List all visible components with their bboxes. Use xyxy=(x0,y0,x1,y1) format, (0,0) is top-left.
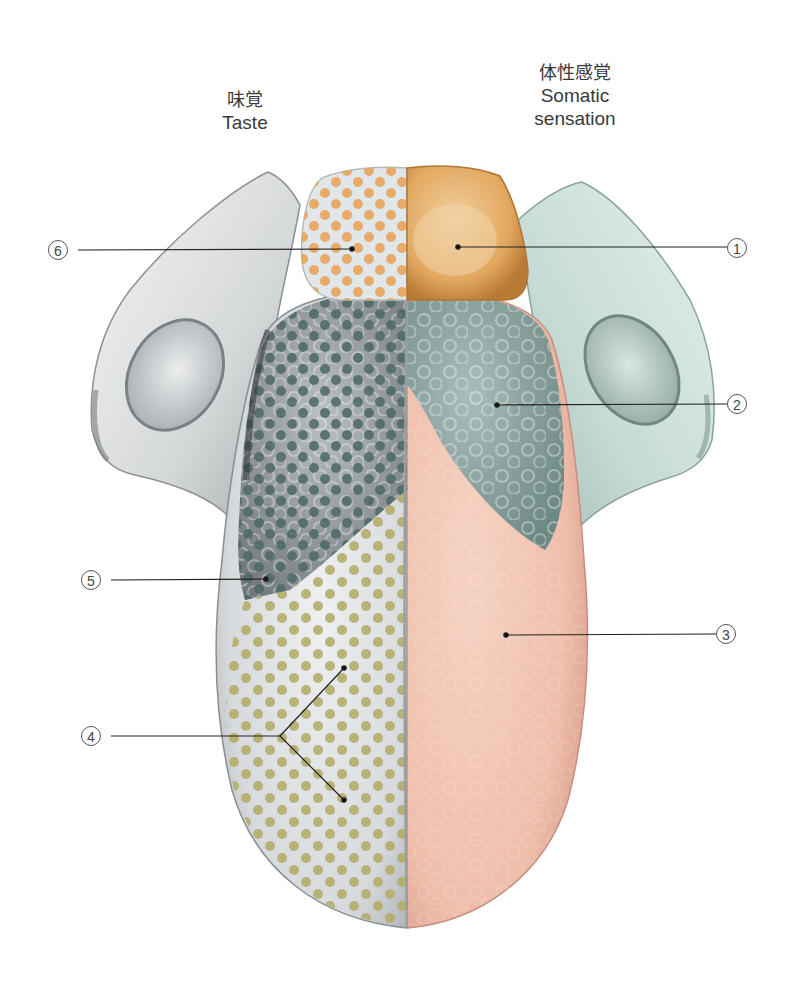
leader-dot-4b xyxy=(342,798,346,802)
callout-5: 5 xyxy=(81,570,101,590)
leader-dot-2 xyxy=(495,403,499,407)
callout-6: 6 xyxy=(48,240,68,260)
callout-2: 2 xyxy=(727,394,747,414)
leader-dot-5 xyxy=(264,577,268,581)
somatic-half xyxy=(407,290,587,928)
header-somatic-jp: 体性感覚 xyxy=(500,61,650,84)
tongue-illustration xyxy=(0,0,812,981)
leader-dot-3 xyxy=(504,633,508,637)
callout-4: 4 xyxy=(81,726,101,746)
header-somatic: 体性感覚 Somatic sensation xyxy=(500,61,650,130)
header-somatic-en: Somatic sensation xyxy=(500,84,650,130)
leader-dot-4a xyxy=(342,666,346,670)
header-taste-jp: 味覚 xyxy=(205,88,285,111)
leader-dot-1 xyxy=(456,245,460,249)
leader-dot-6 xyxy=(350,247,354,251)
epiglottis-taste xyxy=(302,167,407,300)
callout-3: 3 xyxy=(716,624,736,644)
header-taste: 味覚 Taste xyxy=(205,88,285,134)
callout-1: 1 xyxy=(727,238,747,258)
header-taste-en: Taste xyxy=(205,111,285,134)
